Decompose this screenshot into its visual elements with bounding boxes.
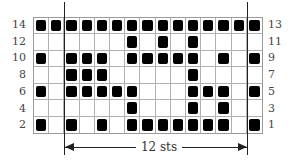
row-label: 5 xyxy=(268,84,292,101)
stitch-cell-filled xyxy=(140,117,155,133)
stitch-cell-filled xyxy=(125,100,140,116)
row-label: 12 xyxy=(4,34,26,51)
row-label: 2 xyxy=(4,117,26,134)
row-label: 9 xyxy=(268,50,292,67)
arrow-left-icon xyxy=(65,143,74,151)
stitch-cell-filled xyxy=(186,117,201,133)
stitch-cell-empty xyxy=(140,100,155,116)
stitch-cell-filled xyxy=(216,84,231,100)
stitch-cell-empty xyxy=(171,34,186,50)
stitch-cell-filled xyxy=(216,117,231,133)
repeat-start-line xyxy=(64,2,65,155)
stitch-cell-filled xyxy=(34,117,49,133)
stitch-cell-empty xyxy=(171,100,186,116)
row-label: 13 xyxy=(268,17,292,34)
stitch-cell-empty xyxy=(80,34,95,50)
stitch-cell-empty xyxy=(110,117,125,133)
stitch-cell-filled xyxy=(80,84,95,100)
stitch-cell-filled xyxy=(64,51,79,67)
stitch-cell-filled xyxy=(186,100,201,116)
stitch-cell-filled xyxy=(125,18,140,34)
stitch-cell-empty xyxy=(49,84,64,100)
row-label: 11 xyxy=(268,34,292,51)
stitch-cell-filled xyxy=(186,34,201,50)
stitch-cell-filled xyxy=(49,18,64,34)
row-label: 3 xyxy=(268,101,292,118)
row-label: 10 xyxy=(4,50,26,67)
chart-grid xyxy=(33,17,263,134)
stitch-cell-filled xyxy=(125,84,140,100)
stitch-cell-empty xyxy=(232,51,247,67)
stitch-cell-filled xyxy=(95,67,110,83)
stitch-cell-filled xyxy=(156,51,171,67)
stitch-cell-empty xyxy=(247,100,262,116)
stitch-cell-filled xyxy=(216,51,231,67)
stitch-cell-empty xyxy=(95,34,110,50)
stitch-cell-empty xyxy=(110,51,125,67)
stitch-cell-filled xyxy=(64,84,79,100)
stitch-cell-filled xyxy=(171,18,186,34)
row-label: 7 xyxy=(268,67,292,84)
stitch-cell-filled xyxy=(247,84,262,100)
stitch-cell-empty xyxy=(232,67,247,83)
stitch-cell-empty xyxy=(201,51,216,67)
stitch-cell-empty xyxy=(49,51,64,67)
repeat-end-line xyxy=(247,2,248,155)
stitch-cell-empty xyxy=(49,34,64,50)
stitch-cell-empty xyxy=(156,100,171,116)
stitch-cell-empty xyxy=(64,34,79,50)
stitch-cell-filled xyxy=(34,51,49,67)
stitch-cell-empty xyxy=(216,34,231,50)
stitch-cell-filled xyxy=(201,84,216,100)
stitch-cell-filled xyxy=(171,51,186,67)
stitch-cell-filled xyxy=(186,84,201,100)
stitch-cell-empty xyxy=(34,67,49,83)
stitch-cell-filled xyxy=(247,117,262,133)
stitch-cell-filled xyxy=(216,100,231,116)
stitch-cell-filled xyxy=(64,67,79,83)
row-label: 8 xyxy=(4,67,26,84)
stitch-cell-empty xyxy=(140,34,155,50)
stitch-cell-filled xyxy=(80,51,95,67)
stitch-cell-empty xyxy=(110,100,125,116)
stitch-cell-filled xyxy=(80,18,95,34)
stitch-cell-empty xyxy=(156,84,171,100)
repeat-label: 12 sts xyxy=(136,139,182,155)
stitch-cell-empty xyxy=(140,84,155,100)
stitch-cell-filled xyxy=(110,18,125,34)
stitch-cell-filled xyxy=(156,18,171,34)
stitch-cell-filled xyxy=(80,67,95,83)
stitch-cell-empty xyxy=(80,117,95,133)
stitch-cell-empty xyxy=(247,67,262,83)
stitch-cell-filled xyxy=(125,34,140,50)
stitch-cell-empty xyxy=(171,84,186,100)
stitch-cell-empty xyxy=(125,67,140,83)
stitch-cell-empty xyxy=(232,84,247,100)
stitch-cell-filled xyxy=(125,51,140,67)
stitch-cell-filled xyxy=(186,51,201,67)
stitch-cell-filled xyxy=(232,18,247,34)
stitch-cell-empty xyxy=(216,67,231,83)
stitch-cell-filled xyxy=(156,34,171,50)
stitch-cell-filled xyxy=(247,18,262,34)
stitch-cell-empty xyxy=(201,34,216,50)
stitch-cell-filled xyxy=(140,51,155,67)
row-label: 14 xyxy=(4,17,26,34)
row-label: 4 xyxy=(4,101,26,118)
stitch-cell-empty xyxy=(80,100,95,116)
stitch-cell-empty xyxy=(110,67,125,83)
stitch-cell-empty xyxy=(34,100,49,116)
stitch-cell-empty xyxy=(171,67,186,83)
arrow-right-icon xyxy=(238,143,247,151)
stitch-cell-empty xyxy=(49,100,64,116)
stitch-cell-empty xyxy=(95,100,110,116)
stitch-cell-empty xyxy=(110,34,125,50)
stitch-cell-filled xyxy=(95,18,110,34)
stitch-cell-empty xyxy=(201,67,216,83)
stitch-cell-filled xyxy=(95,51,110,67)
stitch-cell-empty xyxy=(49,67,64,83)
stitch-cell-empty xyxy=(232,117,247,133)
stitch-cell-filled xyxy=(186,67,201,83)
row-label: 6 xyxy=(4,84,26,101)
stitch-cell-filled xyxy=(216,18,231,34)
